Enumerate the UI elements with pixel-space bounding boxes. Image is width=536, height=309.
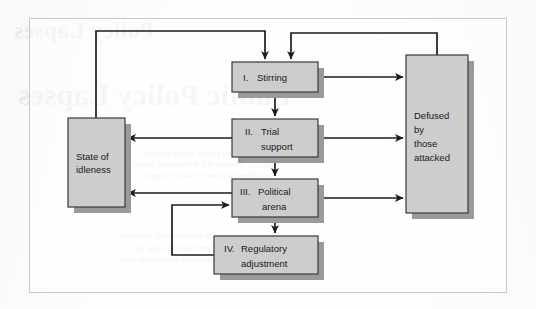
node-label-idleness-line2: idleness (76, 164, 111, 175)
process-flow-diagram: State of idleness I. Stirring II. Trial … (0, 0, 536, 309)
node-label-trial-line2: support (261, 141, 293, 152)
node-stirring[interactable]: I. Stirring (232, 62, 324, 98)
node-state-of-idleness[interactable]: State of idleness (68, 118, 131, 213)
node-body (68, 118, 125, 207)
node-political-arena[interactable]: III. Political arena (232, 179, 324, 223)
node-regulatory-adjustment[interactable]: IV. Regulatory adjustment (214, 236, 324, 280)
nodes-layer: State of idleness I. Stirring II. Trial … (68, 55, 474, 280)
node-label-stirring-text: Stirring (257, 72, 287, 83)
node-label-defused-line2: by (414, 124, 424, 135)
node-label-stirring-number: I. (243, 72, 248, 83)
node-label-defused-line4: attacked (414, 152, 450, 163)
node-label-political-number: III. (240, 186, 251, 197)
node-label-idleness-line1: State of (76, 151, 109, 162)
scanned-page: Policy Lapses Public Policy Lapses lorem… (0, 0, 536, 309)
node-label-political-line1: Political (258, 186, 291, 197)
node-label-regulatory-number: IV. (224, 243, 235, 254)
node-label-trial-number: II. (245, 126, 253, 137)
node-trial-support[interactable]: II. Trial support (232, 119, 324, 163)
node-label-trial-line1: Trial (261, 126, 279, 137)
node-label-regulatory-line2: adjustment (241, 258, 288, 269)
node-label-defused-line1: Defused (414, 110, 449, 121)
node-defused-by-those-attacked[interactable]: Defused by those attacked (406, 55, 474, 219)
node-label-defused-line3: those (414, 138, 437, 149)
node-label-political-line2: arena (262, 201, 287, 212)
node-label-regulatory-line1: Regulatory (241, 243, 287, 254)
